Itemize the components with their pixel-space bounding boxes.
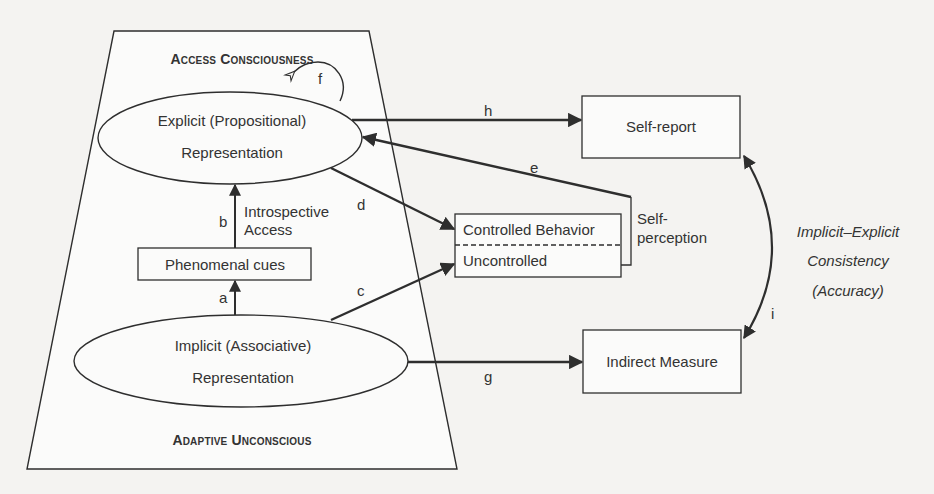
uncontrolled-label: Uncontrolled	[463, 253, 547, 268]
edge-a-label: a	[219, 290, 227, 305]
behavior-back-box	[621, 197, 631, 265]
edge-h-label: h	[484, 103, 492, 118]
implicit-line1: Implicit (Associative)	[175, 338, 312, 353]
edge-g-label: g	[484, 369, 492, 384]
consistency-line3: (Accuracy)	[812, 283, 884, 298]
explicit-line1: Explicit (Propositional)	[158, 113, 306, 128]
introspective-access-line2: Access	[244, 222, 292, 237]
introspective-access-line1: Introspective	[244, 204, 329, 219]
explicit-line2: Representation	[181, 145, 283, 160]
controlled-behavior-label: Controlled Behavior	[463, 222, 595, 237]
self-report-label: Self-report	[626, 119, 696, 134]
consistency-line1: Implicit–Explicit	[797, 224, 900, 239]
phenomenal-cues-label: Phenomenal cues	[165, 257, 285, 272]
implicit-representation-node	[74, 315, 408, 407]
edge-e-label: e	[530, 160, 538, 175]
edge-c-label: c	[357, 283, 365, 298]
edge-d-label: d	[357, 197, 365, 212]
self-perception-line2: perception	[637, 230, 707, 245]
adaptive-unconscious-label: Adaptive Unconscious	[172, 433, 311, 447]
diagram-shapes	[0, 0, 934, 494]
explicit-representation-node	[98, 92, 362, 184]
implicit-line2: Representation	[192, 370, 294, 385]
edge-f-label: f	[318, 71, 322, 86]
edge-i-label: i	[771, 306, 774, 321]
edge-b-label: b	[219, 214, 227, 229]
self-perception-line1: Self-	[637, 211, 668, 226]
edge-i-arc	[744, 156, 772, 338]
consistency-line2: Consistency	[807, 253, 889, 268]
diagram-canvas: Access Consciousness Adaptive Unconsciou…	[0, 0, 934, 494]
indirect-measure-label: Indirect Measure	[606, 354, 718, 369]
access-consciousness-label: Access Consciousness	[170, 52, 313, 66]
